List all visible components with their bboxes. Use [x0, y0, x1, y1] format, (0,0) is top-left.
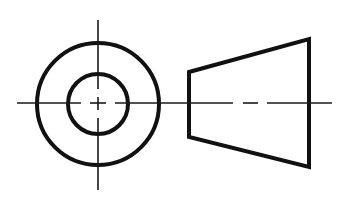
side-view: [186, 39, 332, 167]
end-view: [17, 20, 186, 190]
technical-drawing: [0, 0, 351, 197]
